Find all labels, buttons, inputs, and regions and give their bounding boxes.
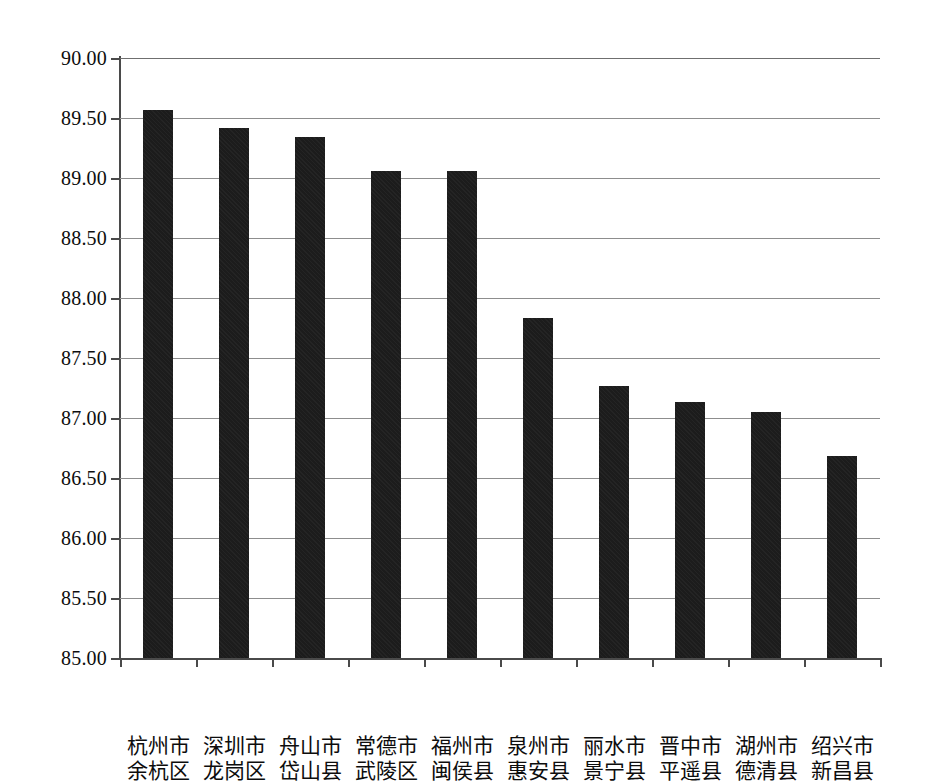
x-axis-label-line: 德清县 xyxy=(728,759,804,784)
x-axis-label-line: 惠安县 xyxy=(500,759,576,784)
x-axis-tick xyxy=(196,658,198,667)
x-axis-label: 晋中市平遥县 xyxy=(652,734,728,784)
x-axis-label-line: 新昌县 xyxy=(804,759,880,784)
y-axis-tick xyxy=(111,178,120,180)
bar[interactable] xyxy=(523,318,553,658)
x-axis-label-line: 景宁县 xyxy=(576,759,652,784)
y-axis-tick-label: 86.00 xyxy=(61,527,107,550)
x-axis-label-line: 闽侯县 xyxy=(424,759,500,784)
x-axis-label-line: 丽水市 xyxy=(576,734,652,759)
y-axis-tick-label: 88.50 xyxy=(61,227,107,250)
x-axis-label-line: 杭州市 xyxy=(120,734,196,759)
x-axis-label: 泉州市惠安县 xyxy=(500,734,576,784)
gridline xyxy=(120,58,880,59)
plot-area: 90.0089.5089.0088.5088.0087.5087.0086.50… xyxy=(120,58,880,658)
x-axis-label-line: 岱山县 xyxy=(272,759,348,784)
bar[interactable] xyxy=(675,402,705,658)
y-axis-tick-label: 87.50 xyxy=(61,347,107,370)
x-axis-label-line: 余杭区 xyxy=(120,759,196,784)
y-axis-tick xyxy=(111,418,120,420)
bar[interactable] xyxy=(599,386,629,658)
x-axis-label-line: 武陵区 xyxy=(348,759,424,784)
y-axis-tick xyxy=(111,238,120,240)
x-axis-label: 杭州市余杭区 xyxy=(120,734,196,784)
x-axis-label-line: 福州市 xyxy=(424,734,500,759)
x-axis-label-line: 绍兴市 xyxy=(804,734,880,759)
x-axis-label-line: 舟山市 xyxy=(272,734,348,759)
bar[interactable] xyxy=(295,137,325,658)
x-axis-tick xyxy=(424,658,426,667)
y-axis-tick xyxy=(111,598,120,600)
x-axis-tick xyxy=(728,658,730,667)
y-axis-tick xyxy=(111,478,120,480)
bar[interactable] xyxy=(219,128,249,658)
bar[interactable] xyxy=(751,412,781,658)
bar[interactable] xyxy=(447,171,477,658)
x-axis-tick xyxy=(272,658,274,667)
x-axis-tick xyxy=(348,658,350,667)
x-axis-tick xyxy=(652,658,654,667)
y-axis-tick-label: 89.00 xyxy=(61,167,107,190)
y-axis-tick xyxy=(111,118,120,120)
x-axis-label-line: 湖州市 xyxy=(728,734,804,759)
x-axis-label: 绍兴市新昌县 xyxy=(804,734,880,784)
x-axis-label-line: 常德市 xyxy=(348,734,424,759)
y-axis-tick xyxy=(111,658,120,660)
x-axis-label: 湖州市德清县 xyxy=(728,734,804,784)
bar[interactable] xyxy=(827,456,857,658)
bar[interactable] xyxy=(371,171,401,658)
x-axis-label-line: 深圳市 xyxy=(196,734,272,759)
y-axis-tick xyxy=(111,358,120,360)
x-axis-label: 常德市武陵区 xyxy=(348,734,424,784)
x-axis-tick xyxy=(120,658,122,667)
y-axis-tick-label: 86.50 xyxy=(61,467,107,490)
y-axis-tick xyxy=(111,298,120,300)
y-axis-tick xyxy=(111,538,120,540)
x-axis-tick xyxy=(576,658,578,667)
x-axis-label-line: 龙岗区 xyxy=(196,759,272,784)
y-axis-tick xyxy=(111,58,120,60)
x-axis-label-line: 晋中市 xyxy=(652,734,728,759)
x-axis-label: 丽水市景宁县 xyxy=(576,734,652,784)
x-axis-tick xyxy=(880,658,882,667)
x-axis-label-line: 平遥县 xyxy=(652,759,728,784)
x-axis-label: 福州市闽侯县 xyxy=(424,734,500,784)
x-axis-label-line: 泉州市 xyxy=(500,734,576,759)
y-axis-tick-label: 90.00 xyxy=(61,47,107,70)
x-axis-label: 舟山市岱山县 xyxy=(272,734,348,784)
x-axis-tick xyxy=(804,658,806,667)
bar[interactable] xyxy=(143,110,173,658)
y-axis-tick-label: 85.00 xyxy=(61,647,107,670)
gridline xyxy=(120,118,880,119)
y-axis-tick-label: 88.00 xyxy=(61,287,107,310)
y-axis-tick-label: 89.50 xyxy=(61,107,107,130)
x-axis-label: 深圳市龙岗区 xyxy=(196,734,272,784)
y-axis-tick-label: 87.00 xyxy=(61,407,107,430)
x-axis-tick xyxy=(500,658,502,667)
y-axis-tick-label: 85.50 xyxy=(61,587,107,610)
